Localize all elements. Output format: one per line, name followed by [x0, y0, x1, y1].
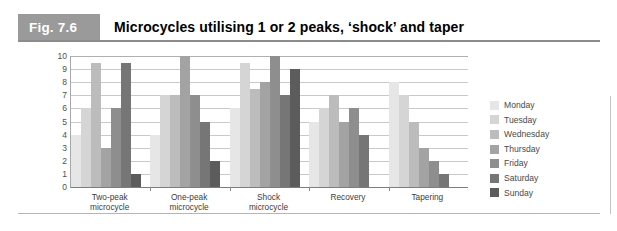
- figure-number: Fig. 7.6: [18, 14, 100, 40]
- bar: [429, 161, 439, 187]
- figure-page: Fig. 7.6 Microcycles utilising 1 or 2 pe…: [0, 0, 617, 231]
- x-axis-category-line: microcycle: [70, 202, 149, 212]
- bar: [101, 148, 111, 187]
- x-axis-category-label: Two-peakmicrocycle: [70, 191, 149, 215]
- bar: [230, 108, 240, 187]
- chart-legend: MondayTuesdayWednesdayThursdayFridaySatu…: [490, 98, 600, 200]
- bar: [349, 108, 359, 187]
- legend-swatch: [490, 115, 499, 124]
- legend-swatch: [490, 145, 499, 154]
- bar: [339, 122, 349, 188]
- legend-label: Saturday: [504, 174, 538, 183]
- bar: [180, 56, 190, 187]
- bar: [71, 135, 81, 187]
- y-tick-label: 9: [51, 65, 67, 74]
- legend-divider: [610, 96, 611, 214]
- x-axis-labels: Two-peakmicrocycleOne-peakmicrocycleShoc…: [70, 191, 467, 215]
- bar: [240, 63, 250, 187]
- x-axis-category-line: Tapering: [388, 192, 467, 202]
- figure-title: Microcycles utilising 1 or 2 peaks, ‘sho…: [100, 14, 600, 40]
- y-tick-label: 5: [51, 117, 67, 126]
- y-tick-label: 6: [51, 104, 67, 113]
- legend-label: Wednesday: [504, 130, 549, 139]
- bar: [270, 56, 280, 187]
- chart-frame: 109876543210 Two-peakmicrocycleOne-peakm…: [18, 46, 600, 214]
- legend-swatch: [490, 130, 499, 139]
- bar: [210, 161, 220, 187]
- x-axis-category-label: Shockmicrocycle: [229, 191, 308, 215]
- bar: [329, 95, 339, 187]
- bar: [200, 122, 210, 188]
- bar: [111, 108, 121, 187]
- legend-swatch: [490, 101, 499, 110]
- bar: [250, 89, 260, 187]
- y-axis: 109876543210: [51, 56, 67, 187]
- plot-wrapper: 109876543210 Two-peakmicrocycleOne-peakm…: [18, 48, 478, 214]
- y-tick-label: 0: [51, 183, 67, 192]
- legend-item: Thursday: [490, 142, 600, 157]
- x-axis-category-label: One-peakmicrocycle: [149, 191, 228, 215]
- legend-item: Monday: [490, 98, 600, 113]
- bar-group: [150, 56, 229, 187]
- bar: [439, 174, 449, 187]
- legend-label: Sunday: [504, 189, 533, 198]
- legend-item: Saturday: [490, 171, 600, 186]
- y-tick-label: 8: [51, 78, 67, 87]
- bar: [389, 82, 399, 187]
- legend-item: Friday: [490, 156, 600, 171]
- bar: [91, 63, 101, 187]
- bar: [170, 95, 180, 187]
- bar-groups: [71, 56, 468, 187]
- bar: [131, 174, 141, 187]
- bar-group: [389, 56, 468, 187]
- x-axis-category-label: Recovery: [308, 191, 387, 215]
- bar: [319, 108, 329, 187]
- bar: [190, 95, 200, 187]
- y-tick-label: 4: [51, 130, 67, 139]
- legend-item: Tuesday: [490, 113, 600, 128]
- y-tick-label: 7: [51, 91, 67, 100]
- legend-swatch: [490, 188, 499, 197]
- x-axis-category-line: One-peak: [149, 192, 228, 202]
- legend-item: Sunday: [490, 186, 600, 201]
- bar: [290, 69, 300, 187]
- bar: [121, 63, 131, 187]
- bar: [160, 95, 170, 187]
- bar-group: [230, 56, 309, 187]
- bar: [260, 82, 270, 187]
- y-tick-label: 3: [51, 143, 67, 152]
- bar: [81, 108, 91, 187]
- figure-header: Fig. 7.6 Microcycles utilising 1 or 2 pe…: [18, 14, 600, 42]
- y-tick-label: 1: [51, 170, 67, 179]
- legend-swatch: [490, 159, 499, 168]
- plot-area: [70, 56, 468, 188]
- x-axis-category-line: microcycle: [149, 202, 228, 212]
- bar: [399, 95, 409, 187]
- legend-label: Friday: [504, 159, 528, 168]
- legend-label: Tuesday: [504, 116, 537, 125]
- legend-label: Monday: [504, 101, 535, 110]
- bar-group: [309, 56, 388, 187]
- bar: [409, 122, 419, 188]
- y-tick-label: 2: [51, 157, 67, 166]
- bar: [150, 135, 160, 187]
- y-tick-label: 10: [51, 52, 67, 61]
- legend-swatch: [490, 174, 499, 183]
- bar: [309, 122, 319, 188]
- x-axis-category-line: Recovery: [308, 192, 387, 202]
- x-axis-category-label: Tapering: [388, 191, 467, 215]
- bar: [280, 95, 290, 187]
- x-axis-category-line: microcycle: [229, 202, 308, 212]
- x-axis-category-line: Shock: [229, 192, 308, 202]
- x-axis-category-line: Two-peak: [70, 192, 149, 202]
- legend-item: Wednesday: [490, 127, 600, 142]
- legend-label: Thursday: [504, 145, 540, 154]
- bar: [419, 148, 429, 187]
- bar-group: [71, 56, 150, 187]
- bar: [359, 135, 369, 187]
